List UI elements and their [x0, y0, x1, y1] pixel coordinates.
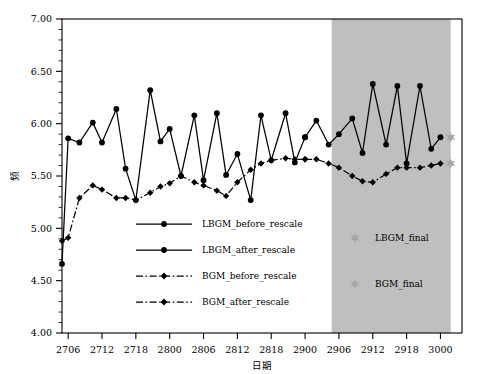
data-point-LBGM_before_rescale: [201, 177, 207, 183]
data-point-LBGM_before_rescale: [147, 87, 153, 93]
x-tick-label: 2918: [395, 344, 419, 355]
x-tick-label: 2712: [90, 344, 114, 355]
data-point-LBGM_after_rescale: [394, 83, 400, 89]
data-point-LBGM_before_rescale: [214, 110, 220, 116]
data-point-LBGM_after_rescale: [313, 118, 319, 124]
data-point-LBGM_before_rescale: [191, 112, 197, 118]
x-tick-label: 2806: [191, 344, 215, 355]
data-point-LBGM_after_rescale: [336, 131, 342, 137]
y-tick-label: 6.00: [31, 118, 52, 129]
legend-marker-LBGM_after_rescale: [161, 247, 167, 253]
x-tick-label: 2912: [361, 344, 385, 355]
data-point-BGM_before_rescale: [113, 195, 119, 201]
x-tick-label: 2800: [158, 344, 182, 355]
data-point-LBGM_after_rescale: [360, 150, 366, 156]
data-point-BGM_before_rescale: [200, 182, 206, 188]
legend-label-LBGM_final: LBGM_final: [375, 233, 429, 244]
x-tick-label: 2812: [225, 344, 249, 355]
legend-label-BGM_final: BGM_final: [375, 279, 423, 290]
data-point-BGM_before_rescale: [122, 195, 128, 201]
data-point-LBGM_before_rescale: [283, 110, 289, 116]
y-tick-label: 4.50: [31, 275, 52, 286]
data-point-LBGM_before_rescale: [158, 139, 164, 145]
x-tick-label: 2906: [327, 344, 351, 355]
data-point-LBGM_after_rescale: [383, 142, 389, 148]
data-point-BGM_before_rescale: [157, 183, 163, 189]
data-point-LBGM_before_rescale: [258, 112, 264, 118]
data-point-BGM_before_rescale: [65, 235, 71, 241]
legend-label-BGM_before_rescale: BGM_before_rescale: [202, 271, 297, 282]
data-point-BGM_before_rescale: [99, 186, 105, 192]
data-point-BGM_before_rescale: [147, 190, 153, 196]
data-point-LBGM_before_rescale: [248, 197, 254, 203]
x-tick-label: 2818: [259, 344, 283, 355]
y-tick-label: 7.00: [31, 13, 52, 24]
legend-marker-BGM_before_rescale: [161, 273, 168, 280]
data-point-BGM_before_rescale: [133, 197, 139, 203]
legend-label-LBGM_before_rescale: LBGM_before_rescale: [202, 219, 303, 230]
data-point-BGM_before_rescale: [166, 180, 172, 186]
data-point-LBGM_after_rescale: [349, 116, 355, 122]
data-point-BGM_before_rescale: [258, 160, 264, 166]
data-point-BGM_before_rescale: [191, 179, 197, 185]
data-point-BGM_before_rescale: [178, 173, 184, 179]
data-point-LBGM_before_rescale: [123, 166, 129, 172]
data-point-BGM_before_rescale: [90, 182, 96, 188]
data-point-BGM_before_rescale: [268, 157, 274, 163]
data-point-BGM_before_rescale: [282, 155, 288, 161]
y-tick-label: 5.00: [31, 223, 52, 234]
y-axis-title: 频: [9, 171, 20, 181]
data-point-LBGM_before_rescale: [223, 172, 229, 178]
x-axis-title: 日期: [252, 360, 272, 371]
legend-marker-LBGM_before_rescale: [161, 221, 167, 227]
data-point-LBGM_before_rescale: [113, 106, 119, 112]
data-point-LBGM_after_rescale: [438, 134, 444, 140]
y-tick-label: 5.50: [31, 170, 52, 181]
line-chart: 4.004.505.005.506.006.507.00270627122718…: [0, 0, 478, 374]
data-point-LBGM_after_rescale: [326, 142, 332, 148]
legend-label-BGM_after_rescale: BGM_after_rescale: [202, 297, 289, 308]
data-point-LBGM_after_rescale: [417, 83, 423, 89]
data-point-BGM_after_rescale: [302, 156, 308, 162]
data-point-LBGM_before_rescale: [167, 126, 173, 132]
y-tick-label: 6.50: [31, 66, 52, 77]
chart-screenshot: 4.004.505.005.506.006.507.00270627122718…: [0, 0, 478, 374]
x-tick-label: 2718: [124, 344, 148, 355]
data-point-BGM_before_rescale: [223, 193, 229, 199]
data-point-BGM_after_rescale: [325, 160, 331, 166]
x-tick-label: 2706: [56, 344, 80, 355]
legend-marker-BGM_after_rescale: [161, 299, 168, 306]
data-point-BGM_after_rescale: [313, 156, 319, 162]
data-point-LBGM_after_rescale: [302, 134, 308, 140]
data-point-LBGM_before_rescale: [65, 135, 71, 141]
x-tick-label: 2900: [293, 344, 317, 355]
x-tick-label: 3000: [428, 344, 452, 355]
data-point-LBGM_after_rescale: [370, 81, 376, 87]
legend-label-LBGM_after_rescale: LBGM_after_rescale: [202, 245, 295, 256]
data-point-LBGM_before_rescale: [90, 120, 96, 126]
y-tick-label: 4.00: [31, 327, 52, 338]
data-point-LBGM_before_rescale: [99, 140, 105, 146]
data-point-LBGM_before_rescale: [77, 140, 83, 146]
data-point-LBGM_before_rescale: [59, 261, 65, 267]
data-point-BGM_before_rescale: [214, 187, 220, 193]
data-point-LBGM_before_rescale: [234, 151, 240, 157]
data-point-LBGM_after_rescale: [428, 146, 434, 152]
